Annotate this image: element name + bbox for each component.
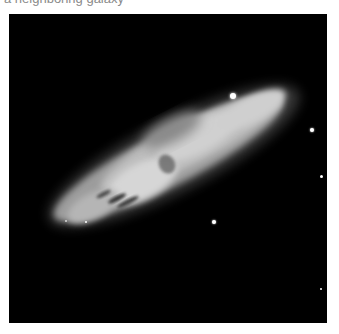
star [212, 220, 216, 224]
caption-text: a neighboring galaxy [4, 0, 124, 6]
galaxy-image [9, 14, 327, 323]
star [320, 175, 323, 178]
star [85, 221, 87, 223]
star [65, 220, 67, 222]
star [230, 93, 236, 99]
star [310, 128, 314, 132]
galaxy-photo [9, 14, 327, 323]
star [320, 288, 322, 290]
